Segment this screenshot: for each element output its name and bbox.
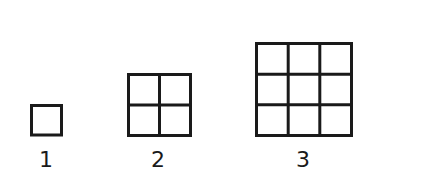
figure-1-grid — [30, 104, 64, 137]
figure-3-grid — [255, 42, 353, 137]
figure-2-grid — [127, 73, 192, 137]
figure-2-label: 2 — [138, 148, 178, 172]
figure-3-label: 3 — [283, 148, 323, 172]
figure-1-label: 1 — [26, 148, 66, 172]
